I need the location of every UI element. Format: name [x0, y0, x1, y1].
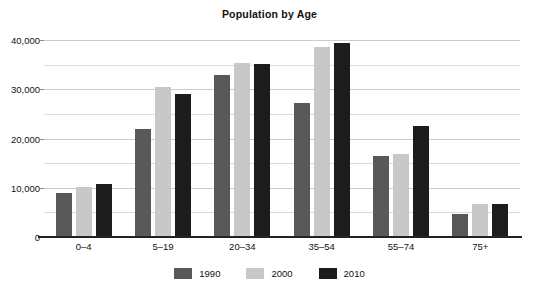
legend-label: 1990: [199, 268, 220, 279]
bar: [214, 75, 230, 237]
chart-legend: 199020002010: [0, 263, 539, 283]
legend-item[interactable]: 2010: [319, 268, 365, 279]
x-axis-tick-label: 0–4: [76, 241, 92, 252]
bar: [314, 47, 330, 237]
bar: [393, 154, 409, 237]
bar: [56, 193, 72, 237]
bar: [373, 156, 389, 237]
x-axis-tick-label: 55–74: [388, 241, 414, 252]
legend-label: 2010: [344, 268, 365, 279]
bar-group: [441, 40, 520, 237]
bar-group: [282, 40, 361, 237]
legend-label: 2000: [271, 268, 292, 279]
bar: [413, 126, 429, 237]
bar: [472, 204, 488, 237]
x-axis-tick-label: 35–54: [308, 241, 334, 252]
chart-title: Population by Age: [0, 8, 539, 20]
y-axis-tick-label: 0: [0, 232, 40, 243]
bar: [254, 64, 270, 237]
bar-chart: Population by Age 010,00020,00030,00040,…: [0, 0, 539, 294]
bar-group: [203, 40, 282, 237]
bar: [76, 187, 92, 237]
x-axis-tick-label: 5–19: [152, 241, 173, 252]
bar: [294, 103, 310, 237]
y-axis-tick-label: 30,000: [0, 84, 40, 95]
legend-item[interactable]: 2000: [246, 268, 292, 279]
bar: [96, 184, 112, 237]
bars-layer: [44, 40, 520, 237]
bar: [155, 87, 171, 237]
x-axis-line: [38, 236, 522, 238]
bar: [234, 63, 250, 237]
x-axis-tick-label: 75+: [472, 241, 488, 252]
bar: [135, 129, 151, 237]
bar: [492, 204, 508, 237]
bar: [334, 43, 350, 237]
legend-swatch: [246, 268, 264, 279]
bar: [175, 94, 191, 237]
bar-group: [44, 40, 123, 237]
y-axis-tick-label: 10,000: [0, 182, 40, 193]
legend-swatch: [174, 268, 192, 279]
bar: [452, 214, 468, 237]
legend-item[interactable]: 1990: [174, 268, 220, 279]
y-axis: 010,00020,00030,00040,000: [0, 40, 40, 237]
bar-group: [361, 40, 440, 237]
y-axis-tick-label: 40,000: [0, 35, 40, 46]
x-axis: 0–45–1920–3435–5455–7475+: [44, 241, 520, 257]
x-axis-tick-label: 20–34: [229, 241, 255, 252]
legend-swatch: [319, 268, 337, 279]
bar-group: [123, 40, 202, 237]
y-axis-tick-label: 20,000: [0, 133, 40, 144]
